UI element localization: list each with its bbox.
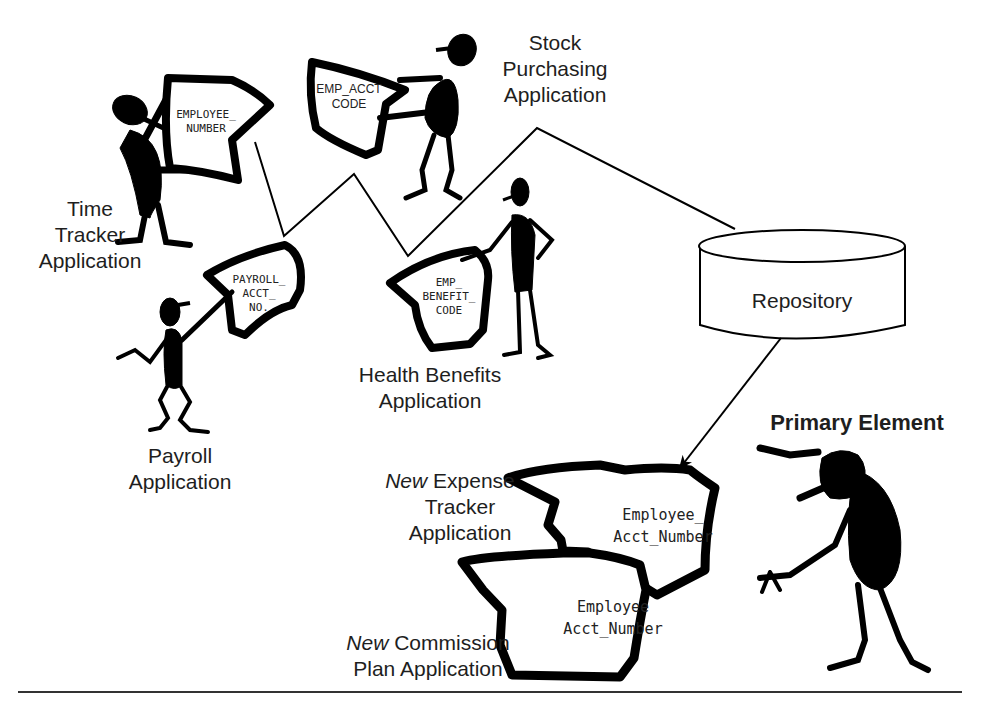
code-line: ACCT_ [228, 287, 290, 301]
code-line: EMP_ACCT [315, 82, 383, 97]
label-stock-purchasing: Stock Purchasing Application [485, 30, 625, 108]
database-cylinder-icon [699, 230, 905, 339]
label-word: Expense [433, 469, 515, 492]
element-code-payroll-acct-no: PAYROLL_ ACCT_ NO. [228, 273, 290, 315]
element-code-employee-acct-number-commission: Employee Acct_Number [550, 596, 676, 640]
label-line: Application [340, 388, 520, 414]
element-code-employee-number: EMPLOYEE_ NUMBER [170, 108, 242, 136]
label-new-expense-tracker: New Expense Tracker Application [360, 468, 540, 546]
label-word: Commission [394, 631, 510, 654]
label-line: Health Benefits [340, 362, 520, 388]
diagram-graphics [0, 0, 984, 720]
label-line: Application [110, 469, 250, 495]
label-line: Tracker [20, 222, 160, 248]
label-line: New Commission [338, 630, 518, 656]
repository-label: Repository [722, 288, 882, 314]
label-line: Payroll [110, 443, 250, 469]
code-line: BENEFIT_ [418, 290, 480, 304]
label-line: Time [20, 196, 160, 222]
stick-figure-icon [118, 292, 232, 432]
code-line: Employee [550, 596, 676, 618]
label-line: Tracker [360, 494, 540, 520]
code-line: Acct_Number [600, 526, 726, 548]
element-code-emp-benefit-code: EMP_ BENEFIT_ CODE [418, 276, 480, 318]
label-time-tracker: Time Tracker Application [20, 196, 160, 274]
label-payroll: Payroll Application [110, 443, 250, 495]
label-line: Application [360, 520, 540, 546]
primary-element-label: Primary Element [752, 410, 962, 436]
label-health-benefits: Health Benefits Application [340, 362, 520, 414]
code-line: Acct_Number [550, 618, 676, 640]
label-line: New Expense [360, 468, 540, 494]
label-line: Stock [485, 30, 625, 56]
diagram-canvas: EMPLOYEE_ NUMBER EMP_ACCT CODE PAYROLL_ … [0, 0, 984, 720]
stick-figure-icon [380, 30, 481, 198]
code-line: EMPLOYEE_ [170, 108, 242, 122]
label-line: Application [485, 82, 625, 108]
label-new-commission-plan: New Commission Plan Application [338, 630, 518, 682]
connector-line [255, 128, 735, 256]
code-line: Employee_ [600, 504, 726, 526]
code-line: PAYROLL_ [228, 273, 290, 287]
element-code-emp-acct-code: EMP_ACCT CODE [315, 82, 383, 112]
code-line: EMP_ [418, 276, 480, 290]
stick-figure-icon [760, 448, 928, 670]
code-line: NO. [228, 301, 290, 315]
label-line: Purchasing [485, 56, 625, 82]
new-prefix: New [385, 469, 427, 492]
label-line: Application [20, 248, 160, 274]
label-line: Plan Application [338, 656, 518, 682]
code-line: NUMBER [170, 122, 242, 136]
element-code-employee-acct-number-expense: Employee_ Acct_Number [600, 504, 726, 548]
new-prefix: New [346, 631, 388, 654]
code-line: CODE [315, 97, 383, 112]
code-line: CODE [418, 304, 480, 318]
